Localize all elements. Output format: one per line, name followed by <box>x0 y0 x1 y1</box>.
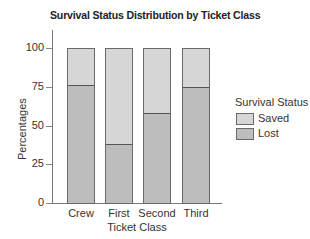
bar-segment-lost <box>68 85 94 203</box>
y-tick <box>46 164 52 165</box>
x-axis-label: Ticket Class <box>52 221 222 233</box>
x-tick-label: Third <box>176 207 216 219</box>
bar-crew <box>67 48 95 204</box>
chart-title: Survival Status Distribution by Ticket C… <box>50 9 260 21</box>
x-tick-label: Crew <box>61 207 101 219</box>
legend-label-saved: Saved <box>258 112 289 124</box>
bar-first <box>105 48 133 204</box>
y-tick <box>46 126 52 127</box>
legend-label-lost: Lost <box>258 127 279 139</box>
y-tick <box>46 87 52 88</box>
y-tick-label: 25 <box>14 157 44 169</box>
y-tick <box>46 203 52 204</box>
legend-title: Survival Status <box>235 96 308 108</box>
x-tick-label: First <box>99 207 139 219</box>
y-tick-label: 100 <box>14 41 44 53</box>
legend-swatch-lost <box>236 128 254 140</box>
bar-segment-lost <box>106 144 132 203</box>
bar-third <box>182 48 210 204</box>
y-tick-label: 75 <box>14 80 44 92</box>
legend-swatch-saved <box>236 113 254 125</box>
bar-second <box>143 48 171 204</box>
x-tick-label: Second <box>137 207 177 219</box>
bar-segment-lost <box>144 113 170 203</box>
bar-segment-lost <box>183 87 209 203</box>
y-axis-line <box>52 30 53 203</box>
y-tick-label: 0 <box>14 196 44 208</box>
y-tick <box>46 48 52 49</box>
y-tick-label: 50 <box>14 119 44 131</box>
